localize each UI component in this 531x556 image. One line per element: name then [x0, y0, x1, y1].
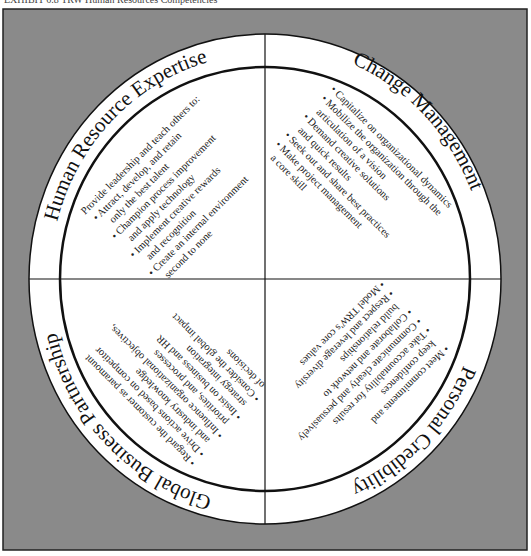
- competency-wheel-diagram: Human Resource Expertise Change Manageme…: [0, 0, 531, 556]
